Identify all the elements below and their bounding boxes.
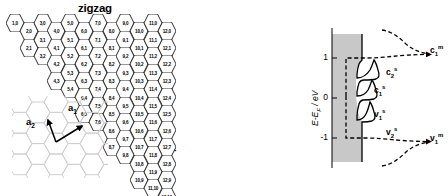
inset-hexagon <box>62 123 86 144</box>
inset-hexagon <box>62 164 86 178</box>
inset-hexagon <box>80 112 104 133</box>
dos-plot-panel: E-EF / eV 1 0 -1 c1m c2s c1s v1s v2s v1m <box>300 0 448 196</box>
lattice-vector-inset: a1 a2 <box>12 96 108 178</box>
peak-label-v1s: v1s <box>374 108 385 121</box>
inset-hexagon <box>12 96 32 112</box>
peak-label-v2s: v2s <box>386 126 397 139</box>
inset-hexagon <box>44 154 68 175</box>
peak-label-c2s: c2s <box>386 66 397 79</box>
peak-label-c1m: c1m <box>430 44 443 57</box>
inset-hexagon <box>12 154 32 175</box>
chirality-map-panel: zigzag armchair 1,02,03,04,05,06,07,08,0… <box>0 0 300 196</box>
inset-hexagon <box>12 133 32 154</box>
inset-hexagon <box>44 112 68 133</box>
hexagon-cell[interactable]: 12,10 <box>158 188 176 196</box>
inset-hexagon <box>26 144 50 165</box>
inset-hexagon <box>98 102 108 123</box>
metallic-dos-tail-upper <box>382 30 426 53</box>
y-tick-label-1: 1 <box>312 52 328 62</box>
inset-hexagon <box>80 154 104 175</box>
lattice-vector-a2-label: a2 <box>26 116 35 129</box>
hexagon-label: 12,10 <box>158 188 176 196</box>
y-tick-label-0: 0 <box>312 92 328 102</box>
inset-hexagon <box>98 164 108 178</box>
peak-label-v1m: v1m <box>430 132 443 145</box>
inset-hexagon <box>98 144 108 165</box>
peak-label-c1s: c1s <box>374 84 385 97</box>
inset-hexagon <box>80 96 104 112</box>
inset-hexagon <box>26 164 50 178</box>
lattice-vector-a1-label: a1 <box>68 102 77 115</box>
y-tick-label-minus-1: -1 <box>309 132 328 142</box>
metallic-dos-tail-lower <box>382 143 426 166</box>
inset-hexagon <box>62 144 86 165</box>
figure-root: zigzag armchair 1,02,03,04,05,06,07,08,0… <box>0 0 448 196</box>
lattice-inset-svg <box>12 96 108 178</box>
inset-hexagon <box>44 96 68 112</box>
inset-hexagon <box>98 123 108 144</box>
inset-hexagon <box>80 133 104 154</box>
